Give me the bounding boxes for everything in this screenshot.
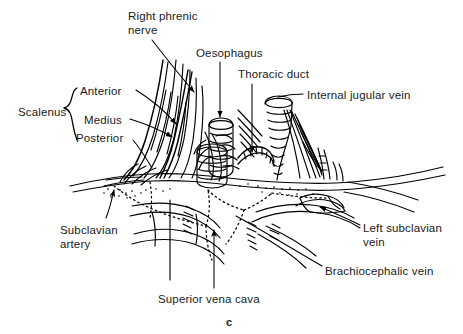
sternomastoid-cut-fan	[284, 110, 330, 179]
label-posterior: Posterior	[76, 132, 123, 146]
label-superior-vena-cava: Superior vena cava	[158, 293, 260, 307]
label-thoracic-duct: Thoracic duct	[238, 68, 309, 82]
label-subclavian-artery: Subclavian artery	[60, 224, 118, 251]
label-medius: Medius	[84, 114, 122, 128]
left-chest-wall-ribs	[130, 200, 224, 280]
internal-jugular-vein-structure	[265, 96, 293, 180]
label-oesophagus: Oesophagus	[196, 47, 263, 61]
lateral-vessels-right	[333, 162, 343, 181]
figure-caption-letter: c	[226, 316, 232, 328]
label-right-phrenic-nerve: Right phrenic nerve	[128, 10, 198, 37]
figure-container: Right phrenic nerve Oesophagus Thoracic …	[0, 0, 463, 334]
label-anterior: Anterior	[80, 85, 121, 99]
brachiocephalic-vein-structure	[252, 204, 360, 268]
label-scalenus: Scalenus	[18, 106, 67, 120]
cut-edge-hatching-right	[247, 222, 280, 250]
cut-edge-hatching-left	[183, 206, 194, 234]
thoracic-duct-arch	[238, 147, 274, 166]
label-left-subclavian-vein: Left subclavian vein	[363, 222, 442, 249]
label-internal-jugular-vein: Internal jugular vein	[307, 89, 411, 103]
label-brachiocephalic-vein: Brachiocephalic vein	[325, 265, 433, 279]
neck-base-contour	[70, 167, 445, 192]
